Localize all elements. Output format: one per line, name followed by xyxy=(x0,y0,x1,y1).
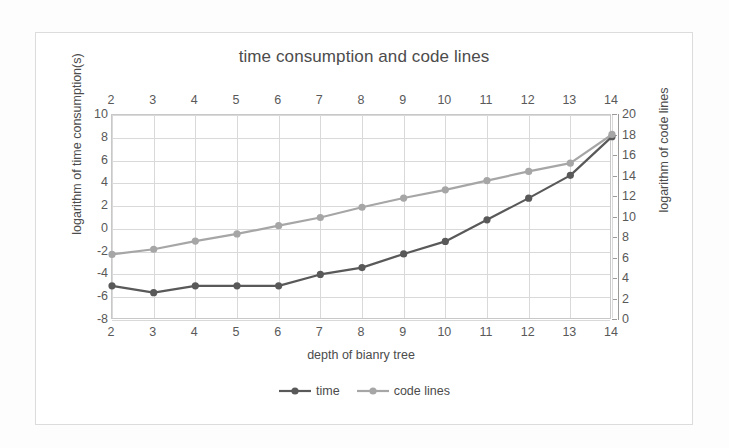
x-tick-label-top: 8 xyxy=(358,93,365,107)
x-tick-label-top: 6 xyxy=(274,93,281,107)
y-tick-label-left: 8 xyxy=(101,130,108,144)
x-tick-label-bottom: 6 xyxy=(274,325,281,339)
y-tick-label-right: 6 xyxy=(618,251,629,265)
y-tick-label-left: -2 xyxy=(97,244,108,258)
data-point-time xyxy=(442,238,449,245)
y-tick-label-right: 8 xyxy=(618,230,629,244)
legend-marker-icon xyxy=(278,385,312,397)
x-tick-label-top: 13 xyxy=(562,93,576,107)
data-point-code-lines xyxy=(442,186,449,193)
y-tick-label-right: 4 xyxy=(618,271,629,285)
data-point-code-lines xyxy=(608,131,615,138)
chart-title: time consumption and code lines xyxy=(36,47,692,67)
y-axis-right-line xyxy=(618,114,619,320)
data-point-code-lines xyxy=(192,237,199,244)
data-point-code-lines xyxy=(358,204,365,211)
x-tick-label-top: 3 xyxy=(149,93,156,107)
legend-label: time xyxy=(316,385,340,398)
x-tick-label-bottom: 7 xyxy=(316,325,323,339)
y-tick-label-left: 0 xyxy=(101,221,108,235)
data-point-time xyxy=(358,264,365,271)
y-tick-mark-right xyxy=(612,319,617,320)
data-point-time xyxy=(108,282,115,289)
data-point-code-lines xyxy=(275,222,282,229)
data-point-code-lines xyxy=(317,214,324,221)
y-tick-label-left: -6 xyxy=(97,289,108,303)
data-point-time xyxy=(233,282,240,289)
x-tick-label-top: 14 xyxy=(604,93,618,107)
y-tick-label-left: -8 xyxy=(97,312,108,326)
x-axis-bottom-tick-labels: 234567891011121314 xyxy=(111,325,611,341)
data-point-code-lines xyxy=(233,230,240,237)
data-point-time xyxy=(150,289,157,296)
x-tick-label-bottom: 2 xyxy=(108,325,115,339)
data-point-time xyxy=(483,216,490,223)
data-point-time xyxy=(400,250,407,257)
y-tick-label-right: 12 xyxy=(618,189,636,203)
data-point-time xyxy=(317,271,324,278)
data-point-code-lines xyxy=(108,251,115,258)
x-tick-label-bottom: 10 xyxy=(437,325,451,339)
y-tick-label-left: 2 xyxy=(101,198,108,212)
data-point-code-lines xyxy=(525,168,532,175)
y-tick-label-left: 10 xyxy=(94,107,108,121)
chart-legend: timecode lines xyxy=(36,385,692,398)
x-tick-label-top: 5 xyxy=(233,93,240,107)
x-tick-label-top: 12 xyxy=(521,93,535,107)
x-tick-label-bottom: 14 xyxy=(604,325,618,339)
x-tick-label-bottom: 5 xyxy=(233,325,240,339)
x-tick-label-top: 10 xyxy=(437,93,451,107)
y-tick-label-left: -4 xyxy=(97,266,108,280)
legend-item[interactable]: time xyxy=(278,385,340,398)
x-tick-label-bottom: 4 xyxy=(191,325,198,339)
data-point-code-lines xyxy=(567,160,574,167)
series-layer xyxy=(112,115,612,320)
y-tick-label-right: 2 xyxy=(618,292,629,306)
y-tick-label-right: 14 xyxy=(618,169,636,183)
data-point-time xyxy=(192,282,199,289)
y-tick-label-right: 0 xyxy=(618,312,629,326)
gridline-vertical xyxy=(612,115,613,318)
y-tick-label-left: 6 xyxy=(101,153,108,167)
data-point-time xyxy=(567,172,574,179)
y-tick-label-right: 16 xyxy=(618,148,636,162)
x-tick-label-bottom: 12 xyxy=(521,325,535,339)
x-tick-label-bottom: 3 xyxy=(149,325,156,339)
y-tick-label-right: 10 xyxy=(618,210,636,224)
x-tick-label-top: 7 xyxy=(316,93,323,107)
data-point-code-lines xyxy=(400,194,407,201)
y-tick-label-right: 18 xyxy=(618,128,636,142)
data-point-code-lines xyxy=(150,246,157,253)
gridline-horizontal xyxy=(112,320,610,321)
plot-area xyxy=(111,114,611,319)
y-axis-left-title: logarithm of time consumption(s) xyxy=(70,24,84,264)
x-tick-label-top: 11 xyxy=(480,93,493,107)
data-point-time xyxy=(275,282,282,289)
y-axis-right-title: logarithm of code lines xyxy=(657,55,671,245)
chart-container: time consumption and code lines 23456789… xyxy=(35,32,693,425)
x-tick-label-bottom: 11 xyxy=(480,325,493,339)
x-tick-label-bottom: 9 xyxy=(399,325,406,339)
y-tick-label-right: 20 xyxy=(618,107,636,121)
x-axis-top-tick-labels: 234567891011121314 xyxy=(111,93,611,109)
data-point-code-lines xyxy=(483,177,490,184)
x-tick-label-top: 9 xyxy=(399,93,406,107)
x-tick-label-bottom: 13 xyxy=(562,325,576,339)
legend-marker-icon xyxy=(356,385,390,397)
x-axis-title: depth of bianry tree xyxy=(111,348,611,362)
x-tick-label-bottom: 8 xyxy=(358,325,365,339)
x-tick-label-top: 4 xyxy=(191,93,198,107)
x-tick-label-top: 2 xyxy=(108,93,115,107)
y-axis-right-tick-labels: 20181614121086420 xyxy=(618,114,652,319)
legend-item[interactable]: code lines xyxy=(356,385,450,398)
y-tick-label-left: 4 xyxy=(101,175,108,189)
data-point-time xyxy=(525,195,532,202)
legend-label: code lines xyxy=(394,385,450,398)
